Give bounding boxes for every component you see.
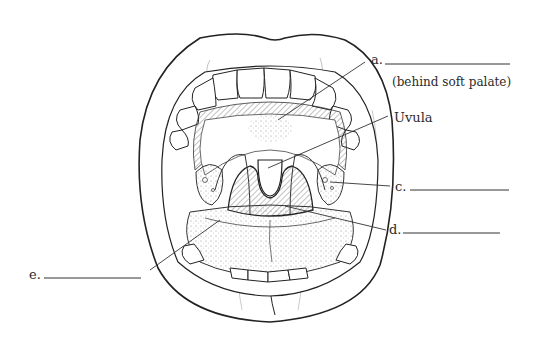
tongue [187,205,354,276]
label-uvula: Uvula [394,111,433,124]
label-c: c. [395,180,406,193]
label-e: e. [29,268,41,281]
label-a: a. [371,53,383,66]
mouth-diagram [0,0,536,347]
nasopharynx-stipple [248,114,292,142]
label-d: d. [389,223,401,236]
label-a-note: (behind soft palate) [392,76,511,88]
